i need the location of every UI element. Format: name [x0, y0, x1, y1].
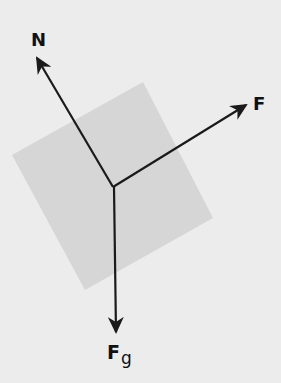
free-body-diagram: N F Fg [0, 0, 281, 383]
gravity-force-label: Fg [107, 343, 132, 362]
gravity-force-symbol: F [107, 341, 120, 363]
normal-force-label: N [31, 31, 46, 49]
gravity-force-subscript: g [121, 348, 132, 368]
normal-force-symbol: N [31, 29, 46, 50]
diagram-svg [0, 0, 281, 383]
applied-force-label: F [253, 95, 265, 113]
applied-force-symbol: F [253, 93, 265, 114]
